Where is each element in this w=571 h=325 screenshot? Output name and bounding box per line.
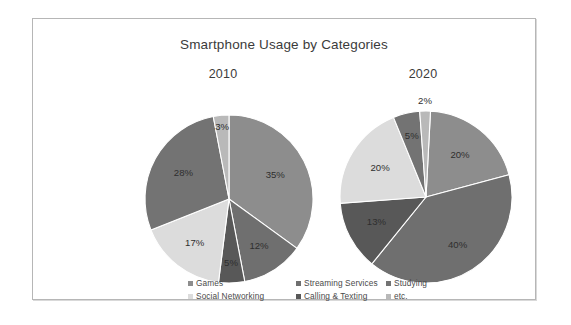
legend-label: Studying <box>394 279 427 287</box>
legend-item-streaming-services[interactable]: Streaming Services <box>296 279 386 287</box>
legend-swatch-icon <box>188 281 193 286</box>
pie-slice-label: 28% <box>174 167 194 178</box>
pie-slice-label: 20% <box>450 149 470 160</box>
legend-item-calling-and-texting[interactable]: Calling & Texting <box>296 292 386 300</box>
legend-swatch-icon <box>296 294 301 299</box>
legend-item-studying[interactable]: Studying <box>386 279 427 287</box>
legend-item-games[interactable]: Games <box>188 279 296 287</box>
pie-slice-label: 3% <box>215 121 229 132</box>
panel-label-2020: 2020 <box>363 67 483 81</box>
pie-slice-label: 40% <box>448 239 468 250</box>
pie-slice-label: 17% <box>185 237 205 248</box>
pie-slice-label: 20% <box>370 162 390 173</box>
legend-label: Streaming Services <box>304 279 378 287</box>
pie-slice-label: 5% <box>405 130 419 141</box>
pie-slice-label: 5% <box>224 257 238 268</box>
legend-row: Games Streaming Services Studying <box>188 277 463 290</box>
pie-slice-label: 2% <box>418 95 432 106</box>
chart-legend: Games Streaming Services Studying Social… <box>188 277 463 303</box>
legend-label: Games <box>196 279 223 287</box>
pie-chart-2010: 35%12%5%17%28%3% <box>112 84 292 264</box>
legend-label: Calling & Texting <box>304 292 367 300</box>
page-title: Smartphone Usage by Categories <box>33 37 535 52</box>
legend-swatch-icon <box>188 294 193 299</box>
legend-item-etc[interactable]: etc. <box>386 292 408 300</box>
legend-swatch-icon <box>386 281 391 286</box>
legend-swatch-icon <box>386 294 391 299</box>
legend-item-social-networking[interactable]: Social Networking <box>188 292 296 300</box>
pie-slice-label: 13% <box>367 216 387 227</box>
legend-swatch-icon <box>296 281 301 286</box>
pie-slice-label: 12% <box>249 240 269 251</box>
legend-label: etc. <box>394 292 408 300</box>
legend-label: Social Networking <box>196 292 264 300</box>
legend-row: Social Networking Calling & Texting etc. <box>188 290 463 303</box>
panel-label-2010: 2010 <box>163 67 283 81</box>
chart-figure-frame: Smartphone Usage by Categories 2010 2020… <box>32 18 536 300</box>
pie-slice-label: 35% <box>266 169 286 180</box>
pie-chart-2020: 20%40%13%20%5%2% <box>309 82 489 262</box>
